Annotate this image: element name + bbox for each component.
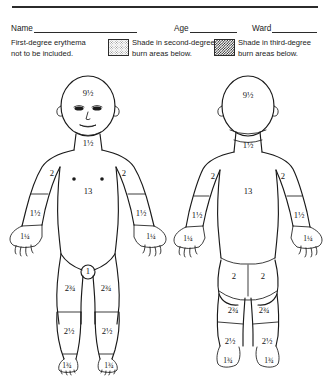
ward-input[interactable] <box>272 22 317 33</box>
legend-first-degree-line2: not to be included. <box>11 49 86 60</box>
anterior-left-shin-inner[interactable] <box>76 312 81 359</box>
legend-second-degree-line2: burn areas below. <box>132 49 215 60</box>
posterior-head-value: 9½ <box>243 90 254 100</box>
legend-third-degree-line1: Shade in third-degree <box>238 38 311 49</box>
anterior-right-shin-outer[interactable] <box>112 312 119 359</box>
anterior-left-nipple <box>72 177 76 181</box>
anterior-left-leg-value: 2½ <box>64 326 75 336</box>
posterior-neck-left[interactable] <box>234 132 236 152</box>
posterior-left-buttock-value: 2 <box>232 271 236 281</box>
legend-third-degree: Shade in third-degree burn areas below. <box>214 38 311 59</box>
legend-third-degree-line2: burn areas below. <box>238 49 311 60</box>
anterior-body-figure[interactable]: 9½ 1½ 2 2 13 1½ 1½ 1¼ 1¼ 1 2¾ 2¾ 2½ 2½ 1… <box>8 74 168 374</box>
anterior-neck-right[interactable] <box>100 134 102 150</box>
posterior-left-upper-arm-value: 2 <box>211 171 215 181</box>
second-degree-swatch-icon <box>108 39 129 56</box>
posterior-body-figure[interactable]: 9½ 1½ 2 2 13 1½ 1½ 1¼ 1¼ 2 2 2¾ 2¾ 2½ 2½… <box>172 74 324 374</box>
anterior-left-forearm-value: 1½ <box>30 208 41 218</box>
posterior-right-buttock-value: 2 <box>261 271 265 281</box>
posterior-left-thigh-value: 2¾ <box>228 305 239 315</box>
posterior-right-thigh-value: 2¾ <box>259 305 270 315</box>
legend-first-degree-text: First-degree erythema not to be included… <box>11 38 86 59</box>
anterior-right-foot-value: 1¾ <box>104 361 114 370</box>
legend-second-degree-text: Shade in second-degree burn areas below. <box>132 38 215 59</box>
anterior-right-pupil <box>93 107 102 111</box>
ward-label: Ward <box>252 24 272 33</box>
burn-assessment-chart: Name Age Ward First-degree erythema not … <box>0 0 328 377</box>
posterior-left-thigh-inner[interactable] <box>243 298 245 346</box>
posterior-right-foot-value: 1¾ <box>264 356 274 365</box>
top-divider-rule <box>12 6 318 8</box>
legend-first-degree-line1: First-degree erythema <box>11 38 86 49</box>
anterior-body-diagram[interactable]: 9½ 1½ 2 2 13 1½ 1½ 1¼ 1¼ 1 2¾ 2¾ 2½ 2½ 1… <box>8 74 168 374</box>
legend-second-degree: Shade in second-degree burn areas below. <box>108 38 215 59</box>
anterior-left-wrist-line <box>22 225 42 226</box>
posterior-left-forearm-value: 1½ <box>192 210 203 220</box>
posterior-left-leg-outer[interactable] <box>217 294 220 346</box>
name-field-group[interactable]: Name <box>11 20 137 33</box>
anterior-left-upper-arm-value: 2 <box>50 168 54 178</box>
anterior-mouth <box>80 125 96 127</box>
anterior-left-groin[interactable] <box>61 254 82 270</box>
posterior-neck-right[interactable] <box>260 132 262 152</box>
posterior-neck-value: 1½ <box>243 140 254 150</box>
posterior-right-leg-outer[interactable] <box>276 294 279 346</box>
legend-second-degree-line1: Shade in second-degree <box>132 38 215 49</box>
anterior-neck-left[interactable] <box>74 134 76 150</box>
ward-field-group[interactable]: Ward <box>252 20 317 33</box>
name-input[interactable] <box>34 22 137 33</box>
anterior-right-leg-value: 2½ <box>102 326 113 336</box>
legend-first-degree: First-degree erythema not to be included… <box>11 38 86 59</box>
posterior-left-knee-line <box>218 322 243 324</box>
anterior-right-shin-inner[interactable] <box>95 312 100 359</box>
posterior-left-leg-value: 2½ <box>225 336 236 346</box>
age-input[interactable] <box>190 22 237 33</box>
anterior-left-thigh-value: 2¾ <box>65 283 76 293</box>
anterior-right-upper-arm-value: 2 <box>122 168 126 178</box>
anterior-right-groin[interactable] <box>94 254 115 270</box>
anterior-trunk-right[interactable] <box>115 167 118 254</box>
posterior-waist-line <box>221 258 275 264</box>
posterior-right-forearm-value: 1½ <box>294 210 305 220</box>
anterior-left-pupil <box>75 107 84 111</box>
posterior-head-outline[interactable] <box>222 76 274 136</box>
anterior-trunk-left[interactable] <box>58 167 61 254</box>
anterior-right-wrist-line <box>134 225 154 226</box>
anterior-neck-value: 1½ <box>83 138 94 148</box>
burn-degree-legend: First-degree erythema not to be included… <box>11 38 321 64</box>
anterior-trunk-value: 13 <box>84 186 93 196</box>
posterior-trunk-value: 13 <box>244 186 253 196</box>
anterior-genitalia-value: 1 <box>86 266 90 276</box>
posterior-right-hand-value: 1¼ <box>303 234 313 243</box>
posterior-trunk-left[interactable] <box>218 170 221 258</box>
posterior-right-upper-arm-value: 2 <box>281 171 285 181</box>
anterior-right-thigh-value: 2¾ <box>101 283 112 293</box>
posterior-right-knee-line <box>253 322 278 324</box>
age-field-group[interactable]: Age <box>174 20 237 33</box>
patient-identification-row: Name Age Ward <box>11 20 319 34</box>
posterior-left-wrist-line <box>186 226 203 227</box>
anterior-head-value: 9½ <box>83 88 94 98</box>
anterior-nose <box>86 112 90 120</box>
third-degree-swatch-icon <box>214 39 235 56</box>
anterior-chin <box>75 132 101 136</box>
posterior-right-thigh-inner[interactable] <box>251 298 253 346</box>
posterior-right-wrist-line <box>293 226 310 227</box>
anterior-left-foot-value: 1¾ <box>62 361 72 370</box>
posterior-left-hand-value: 1¼ <box>183 234 193 243</box>
legend-third-degree-text: Shade in third-degree burn areas below. <box>238 38 311 59</box>
posterior-body-diagram[interactable]: 9½ 1½ 2 2 13 1½ 1½ 1¼ 1¼ 2 2 2¾ 2¾ 2½ 2½… <box>172 74 324 374</box>
name-label: Name <box>11 24 34 33</box>
anterior-right-forearm-value: 1½ <box>136 208 147 218</box>
age-label: Age <box>174 24 190 33</box>
posterior-left-foot-value: 1¾ <box>223 356 233 365</box>
anterior-right-nipple <box>100 177 104 181</box>
posterior-right-leg-value: 2½ <box>262 336 273 346</box>
anterior-left-hand-value: 1¼ <box>20 232 30 241</box>
posterior-trunk-right[interactable] <box>275 170 278 258</box>
anterior-right-hand-value: 1¼ <box>146 232 156 241</box>
